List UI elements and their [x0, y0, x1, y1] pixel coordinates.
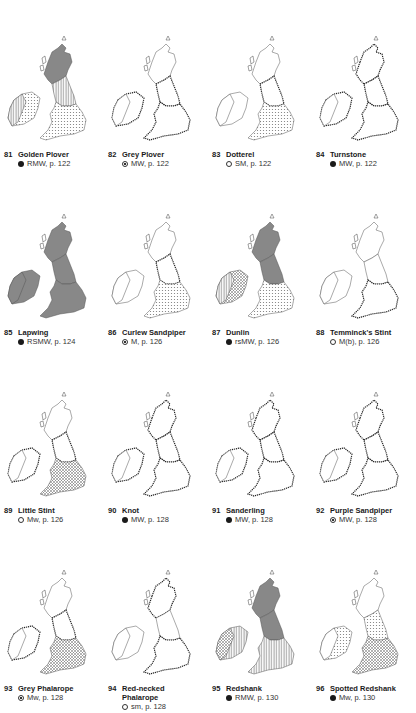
distribution-map: [208, 178, 312, 328]
species-status: sm, p. 128: [108, 702, 208, 711]
species-name: Knot: [122, 506, 139, 515]
species-status: MW, p. 122: [108, 159, 208, 168]
status-text: MW, p. 122: [339, 159, 377, 168]
species-name: Lapwing: [18, 328, 48, 337]
filled-circle-icon: [18, 339, 24, 345]
open-circle-icon: [18, 517, 24, 523]
species-name: Dotterel: [226, 150, 254, 159]
species-number: 95: [212, 684, 226, 693]
species-map-panel: 91Sanderling MW, p. 128: [208, 356, 312, 534]
species-caption: 85Lapwing RSMW, p. 124: [4, 328, 104, 346]
species-name: Dunlin: [226, 328, 249, 337]
species-caption: 94Red-necked Phalarope sm, p. 128: [108, 684, 208, 711]
species-number: 86: [108, 328, 122, 337]
species-number: 84: [316, 150, 330, 159]
species-name: Red-necked: [122, 684, 165, 693]
distribution-map: [0, 178, 104, 328]
species-number: 96: [316, 684, 330, 693]
species-map-panel: 94Red-necked Phalarope sm, p. 128: [104, 534, 208, 712]
species-caption: 83Dotterel SM, p. 122: [212, 150, 312, 168]
species-map-panel: 93Grey Phalarope Mw, p. 128: [0, 534, 104, 712]
species-map-panel: 95Redshank RMW, p. 130: [208, 534, 312, 712]
species-caption: 84Turnstone MW, p. 122: [316, 150, 416, 168]
species-name: Spotted Redshank: [330, 684, 396, 693]
filled-circle-icon: [330, 161, 336, 167]
distribution-map: [208, 534, 312, 684]
species-map-grid: 81Golden Plover RMW, p. 122 82Grey Plove…: [0, 0, 416, 713]
status-text: Mw, p. 128: [27, 693, 63, 702]
species-name: Curlew Sandpiper: [122, 328, 186, 337]
distribution-map: [312, 356, 416, 506]
species-status: M, p. 126: [108, 337, 208, 346]
species-map-panel: 84Turnstone MW, p. 122: [312, 0, 416, 178]
distribution-map: [104, 178, 208, 328]
species-map-panel: 85Lapwing RSMW, p. 124: [0, 178, 104, 356]
species-status: MW, p. 122: [316, 159, 416, 168]
species-status: RSMW, p. 124: [4, 337, 104, 346]
distribution-map: [312, 534, 416, 684]
status-text: M(b), p. 126: [339, 337, 379, 346]
species-map-panel: 96Spotted Redshank Mw, p. 130: [312, 534, 416, 712]
species-caption: 95Redshank RMW, p. 130: [212, 684, 312, 702]
species-name: Redshank: [226, 684, 262, 693]
filled-circle-icon: [18, 161, 24, 167]
filled-circle-icon: [122, 517, 128, 523]
open-circle-icon: [226, 161, 232, 167]
species-map-panel: 92Purple Sandpiper MW, p. 128: [312, 356, 416, 534]
species-number: 85: [4, 328, 18, 337]
status-text: M, p. 126: [131, 337, 162, 346]
filled-circle-icon: [226, 695, 232, 701]
distribution-map: [208, 356, 312, 506]
species-name: Purple Sandpiper: [330, 506, 392, 515]
species-number: 90: [108, 506, 122, 515]
species-name: Grey Phalarope: [18, 684, 73, 693]
species-map-panel: 87Dunlin rsMW, p. 126: [208, 178, 312, 356]
species-name: Grey Plover: [122, 150, 164, 159]
status-text: SM, p. 122: [235, 159, 271, 168]
species-number: 81: [4, 150, 18, 159]
species-caption: 92Purple Sandpiper MW, p. 128: [316, 506, 416, 524]
species-caption: 81Golden Plover RMW, p. 122: [4, 150, 104, 168]
species-name: Little Stint: [18, 506, 55, 515]
species-name: Sanderling: [226, 506, 265, 515]
status-text: rsMW, p. 126: [235, 337, 279, 346]
open-circle-icon: [330, 339, 336, 345]
species-caption: 89Little Stint Mw, p. 126: [4, 506, 104, 524]
species-status: MW, p. 128: [108, 515, 208, 524]
status-text: MW, p. 122: [131, 159, 169, 168]
species-number: 94: [108, 684, 122, 693]
species-status: rsMW, p. 126: [212, 337, 312, 346]
species-map-panel: 89Little Stint Mw, p. 126: [0, 356, 104, 534]
species-status: RMW, p. 122: [4, 159, 104, 168]
species-number: 82: [108, 150, 122, 159]
species-caption: 96Spotted Redshank Mw, p. 130: [316, 684, 416, 702]
filled-circle-icon: [226, 339, 232, 345]
status-text: MW, p. 128: [131, 515, 169, 524]
species-name: Turnstone: [330, 150, 366, 159]
status-text: Mw, p. 126: [27, 515, 63, 524]
dotted-circle-icon: [122, 161, 128, 167]
distribution-map: [104, 356, 208, 506]
distribution-map: [0, 0, 104, 150]
species-map-panel: 88Temminck's Stint M(b), p. 126: [312, 178, 416, 356]
status-text: RMW, p. 130: [235, 693, 278, 702]
dotted-circle-icon: [330, 517, 336, 523]
species-status: Mw, p. 128: [4, 693, 104, 702]
species-status: SM, p. 122: [212, 159, 312, 168]
distribution-map: [0, 534, 104, 684]
species-status: Mw, p. 126: [4, 515, 104, 524]
species-caption: 82Grey Plover MW, p. 122: [108, 150, 208, 168]
species-number: 88: [316, 328, 330, 337]
status-text: RSMW, p. 124: [27, 337, 75, 346]
dotted-circle-icon: [122, 339, 128, 345]
distribution-map: [312, 178, 416, 328]
distribution-map: [312, 0, 416, 150]
species-status: M(b), p. 126: [316, 337, 416, 346]
status-text: MW, p. 128: [235, 515, 273, 524]
dotted-circle-icon: [18, 695, 24, 701]
species-map-panel: 82Grey Plover MW, p. 122: [104, 0, 208, 178]
status-text: sm, p. 128: [131, 702, 166, 711]
species-map-panel: 83Dotterel SM, p. 122: [208, 0, 312, 178]
species-caption: 90Knot MW, p. 128: [108, 506, 208, 524]
species-caption: 88Temminck's Stint M(b), p. 126: [316, 328, 416, 346]
